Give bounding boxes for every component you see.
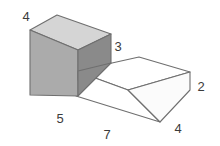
label-cube-width: 5 bbox=[56, 111, 63, 126]
label-cube-height: 3 bbox=[114, 39, 121, 54]
composite-solid-diagram: 4 3 5 7 2 4 bbox=[0, 0, 220, 146]
label-slab-depth: 4 bbox=[174, 121, 181, 136]
figure-root: 4 3 5 7 2 4 bbox=[0, 0, 220, 146]
label-slab-length: 7 bbox=[103, 127, 110, 142]
label-slab-height: 2 bbox=[197, 79, 204, 94]
label-cube-depth: 4 bbox=[22, 9, 29, 24]
